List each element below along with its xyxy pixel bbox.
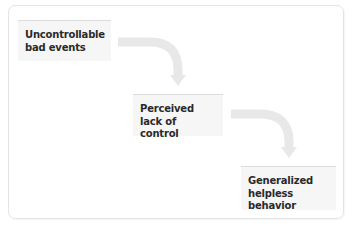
node-label: Uncontrollable bad events	[25, 29, 103, 54]
node-uncontrollable-bad-events: Uncontrollable bad events	[18, 20, 111, 61]
arrow-node1-to-node2	[118, 42, 186, 86]
node-label: Generalized helpless behavior	[248, 175, 328, 213]
node-perceived-lack-of-control: Perceived lack of control	[133, 94, 223, 136]
arrow-node2-to-node3	[231, 114, 297, 158]
node-label: Perceived lack of control	[140, 103, 215, 141]
node-generalized-helpless-behavior: Generalized helpless behavior	[241, 166, 336, 210]
